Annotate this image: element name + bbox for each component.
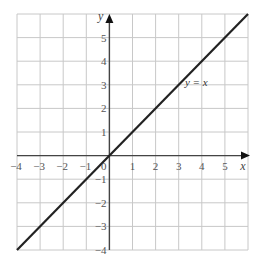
x-tick-label: −4 — [10, 160, 22, 172]
y-tick-label: −3 — [95, 220, 107, 232]
x-axis-label: x — [239, 159, 246, 173]
origin-label: 0 — [101, 160, 107, 172]
line-chart: −4−3−2−1012345−4−3−2−112345 xyy = x — [0, 0, 260, 262]
x-tick-label: 5 — [222, 160, 228, 172]
x-tick-label: −2 — [56, 160, 68, 172]
x-tick-label: 4 — [199, 160, 205, 172]
x-tick-label: −3 — [33, 160, 45, 172]
x-tick-label: 1 — [130, 160, 136, 172]
y-tick-label: −4 — [95, 244, 107, 256]
y-tick-label: 4 — [101, 55, 107, 67]
y-tick-label: 1 — [101, 126, 107, 138]
x-tick-label: −1 — [79, 160, 91, 172]
y-tick-label: −1 — [95, 173, 107, 185]
y-tick-label: 2 — [101, 102, 107, 114]
y-axis-arrow-icon — [105, 14, 113, 23]
y-axis-label: y — [97, 9, 104, 23]
line-annotation: y = x — [184, 76, 208, 88]
x-tick-label: 3 — [176, 160, 182, 172]
x-tick-label: 2 — [153, 160, 159, 172]
y-tick-label: 5 — [101, 32, 107, 44]
y-tick-label: −2 — [95, 197, 107, 209]
y-tick-label: 3 — [101, 79, 107, 91]
